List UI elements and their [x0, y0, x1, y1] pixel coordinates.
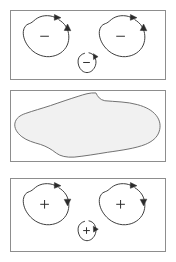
panel-middle-canvas: [11, 91, 165, 161]
panel-positive-vorticity: [10, 178, 166, 252]
panel-merged-region: [10, 90, 166, 162]
arrowhead-top: [130, 183, 137, 189]
arrowhead-top: [54, 14, 61, 20]
plus-sign: [84, 228, 90, 234]
panel-bottom-canvas: [11, 179, 165, 251]
loop-small-center: [78, 53, 98, 73]
panel-negative-vorticity: [10, 10, 166, 80]
loop-large-left: [23, 14, 71, 56]
figure-three-panel-diagram: [0, 0, 176, 262]
arrowhead-right-down: [64, 199, 71, 206]
arrowhead-right-down: [140, 199, 147, 206]
plus-sign: [41, 200, 49, 208]
arrowhead-top: [54, 183, 61, 189]
plus-sign: [117, 200, 125, 208]
panel-top-canvas: [11, 11, 165, 79]
loop-large-right: [99, 183, 147, 225]
loop-large-right: [99, 14, 147, 56]
loop-large-left: [23, 183, 71, 225]
loop-small-center: [78, 221, 98, 241]
arrowhead-top: [130, 14, 137, 20]
blob-merged: [15, 93, 160, 157]
